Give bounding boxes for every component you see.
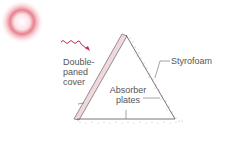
label-double-paned-cover: Double- paned cover [63, 57, 95, 87]
label-styrofoam: Styrofoam [171, 56, 212, 66]
sunlight-ray-icon [61, 41, 90, 52]
label-absorber-line2: plates [108, 95, 148, 105]
label-absorber-plates: Absorber plates [108, 85, 148, 105]
label-cover-line1: Double- [63, 57, 95, 67]
label-absorber-line1: Absorber [108, 85, 148, 95]
label-cover-line2: paned [63, 67, 95, 77]
solar-collector-diagram [0, 0, 232, 143]
sun-icon [0, 0, 44, 44]
styrofoam-insulation [80, 37, 183, 123]
label-cover-line3: cover [63, 77, 95, 87]
